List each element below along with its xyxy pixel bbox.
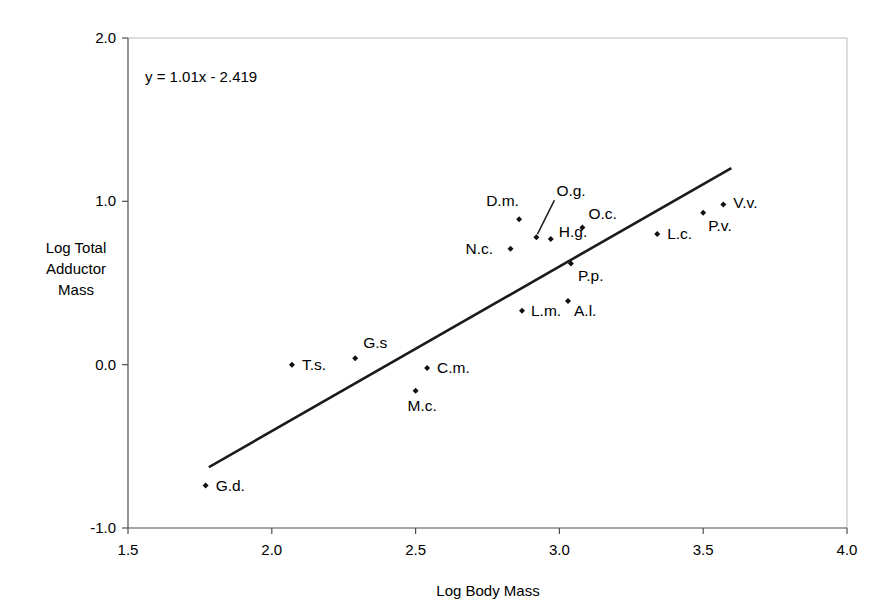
- point-label-Dm: D.m.: [486, 192, 519, 209]
- x-tick-label-5: 4.0: [837, 541, 858, 558]
- point-label-Og: O.g.: [556, 182, 585, 199]
- chart-background: [0, 0, 892, 614]
- x-tick-label-2: 2.5: [405, 541, 426, 558]
- point-label-Mc: M.c.: [408, 397, 437, 414]
- point-label-Pp: P.p.: [578, 267, 604, 284]
- point-label-Pv: P.v.: [708, 217, 732, 234]
- plot-canvas: -1.00.01.02.0 1.52.02.53.03.54.0 Log Tot…: [0, 0, 892, 614]
- point-label-Al: A.l.: [574, 302, 596, 319]
- point-label-Ts: T.s.: [302, 356, 326, 373]
- y-tick-label-0: -1.0: [90, 519, 116, 536]
- y-axis-title-line-3: Mass: [58, 281, 94, 298]
- y-axis-title-line-1: Log Total: [46, 239, 107, 256]
- point-label-Hg: H.g.: [559, 223, 587, 240]
- point-label-Cm: C.m.: [437, 359, 470, 376]
- x-tick-label-1: 2.0: [261, 541, 282, 558]
- y-tick-label-2: 1.0: [95, 192, 116, 209]
- point-label-Oc: O.c.: [588, 205, 616, 222]
- point-label-Gd: G.d.: [216, 477, 245, 494]
- x-tick-label-0: 1.5: [118, 541, 139, 558]
- x-tick-label-4: 3.5: [693, 541, 714, 558]
- y-tick-label-1: 0.0: [95, 356, 116, 373]
- y-axis-title-line-2: Adductor: [46, 260, 106, 277]
- point-label-Nc: N.c.: [466, 240, 494, 257]
- equation-annotation: y = 1.01x - 2.419: [145, 68, 257, 85]
- scatter-chart: -1.00.01.02.0 1.52.02.53.03.54.0 Log Tot…: [0, 0, 892, 614]
- point-label-Lm: L.m.: [531, 302, 561, 319]
- point-label-Gs: G.s: [363, 334, 387, 351]
- x-axis-title: Log Body Mass: [436, 582, 539, 599]
- x-tick-label-3: 3.0: [549, 541, 570, 558]
- y-tick-label-3: 2.0: [95, 29, 116, 46]
- point-label-Lc: L.c.: [667, 225, 692, 242]
- point-label-Vv: V.v.: [733, 194, 757, 211]
